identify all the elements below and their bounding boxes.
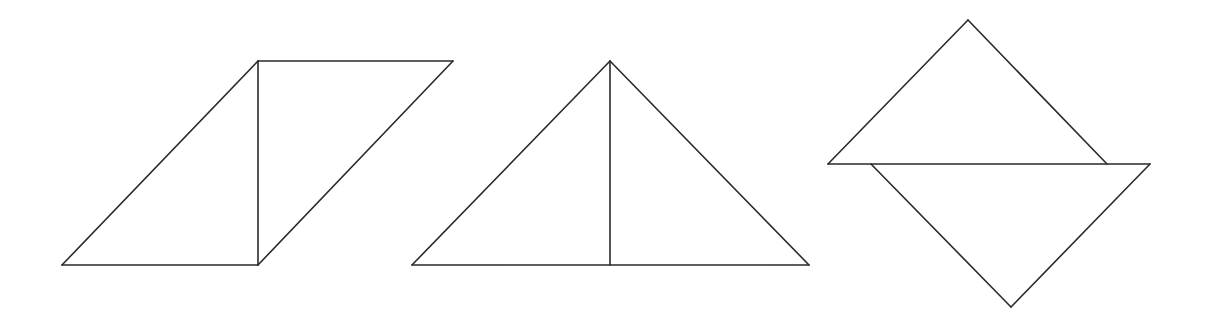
isosceles-triangle-split-edge-0 xyxy=(412,61,610,265)
offset-triangles-edge-1 xyxy=(968,20,1107,164)
offset-triangles-edge-3 xyxy=(871,164,1011,307)
parallelogram-split-edge-2 xyxy=(258,61,453,265)
diagram-canvas xyxy=(0,0,1205,327)
offset-triangles-edge-0 xyxy=(828,20,968,164)
figure-offset-triangles xyxy=(828,20,1150,307)
isosceles-triangle-split-edge-1 xyxy=(610,61,809,265)
figure-parallelogram-split xyxy=(62,61,453,265)
figure-isosceles-triangle-split xyxy=(412,61,809,265)
offset-triangles-edge-4 xyxy=(1011,164,1150,307)
geometric-figures xyxy=(0,0,1205,327)
parallelogram-split-edge-0 xyxy=(62,61,258,265)
